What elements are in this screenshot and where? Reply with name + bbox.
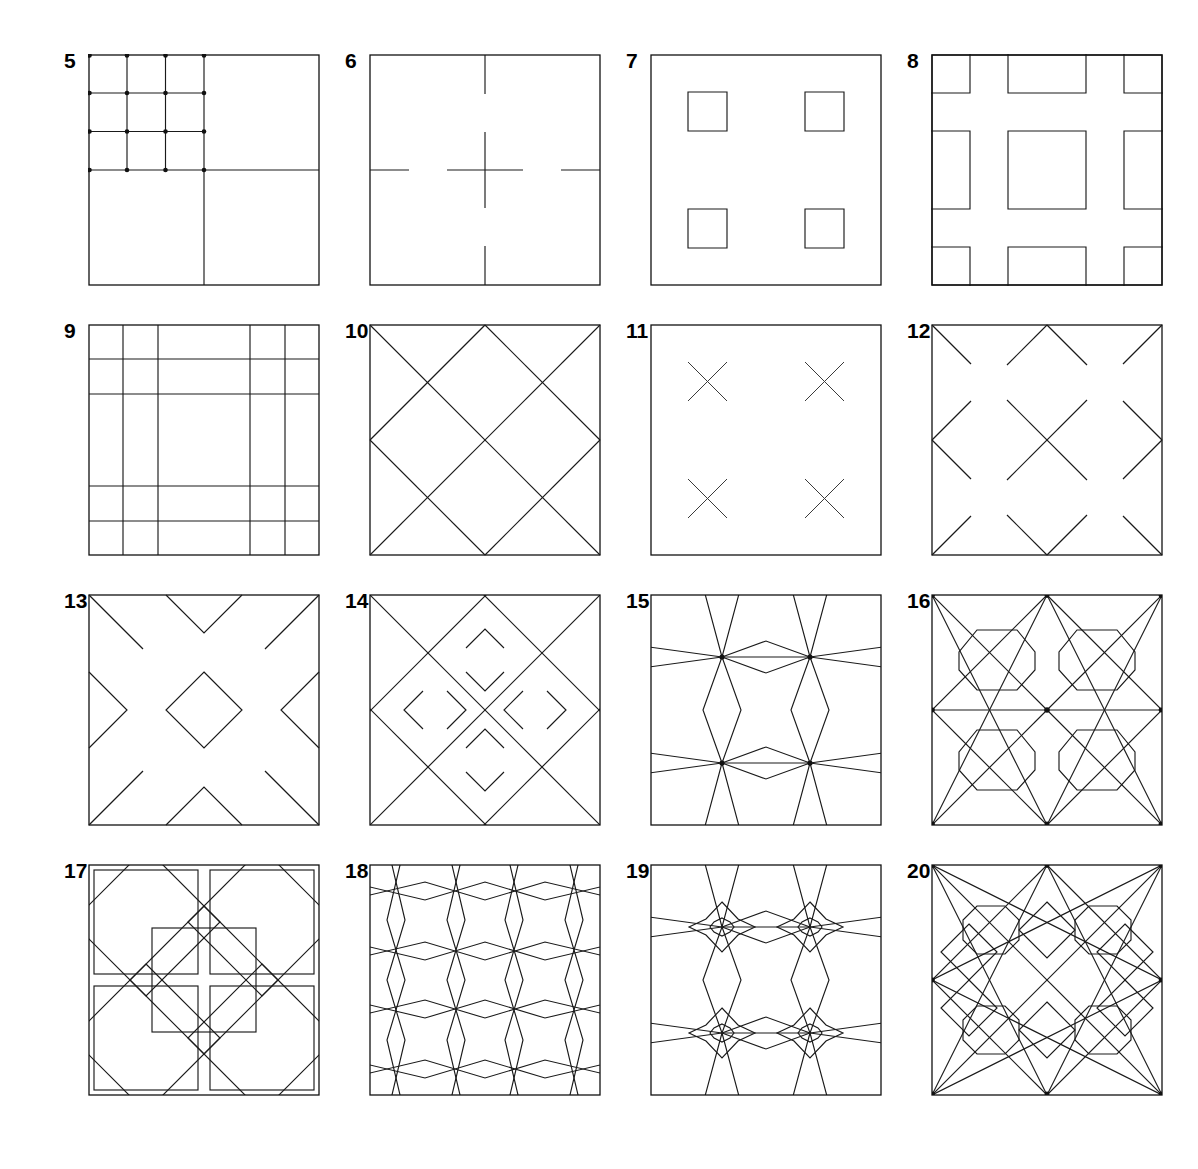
figure-cell-7: 7	[618, 40, 899, 310]
figure-label: 19	[626, 860, 649, 881]
figure-cell-8: 8	[899, 40, 1180, 310]
figure-drawing-12	[931, 324, 1163, 556]
figure-label: 15	[626, 590, 649, 611]
figure-drawing-17	[88, 864, 320, 1096]
figure-drawing-19	[650, 864, 882, 1096]
figure-label: 13	[64, 590, 87, 611]
figure-drawing-6	[369, 54, 601, 286]
figure-cell-13: 13	[56, 580, 337, 850]
figure-label: 20	[907, 860, 930, 881]
figure-cell-20: 20	[899, 850, 1180, 1120]
figure-cell-11: 11	[618, 310, 899, 580]
figure-drawing-9	[88, 324, 320, 556]
figure-drawing-10	[369, 324, 601, 556]
figure-label: 18	[345, 860, 368, 881]
figure-cell-14: 14	[337, 580, 618, 850]
figure-cell-5: 5	[56, 40, 337, 310]
figure-cell-12: 12	[899, 310, 1180, 580]
figure-cell-10: 10	[337, 310, 618, 580]
figure-label: 9	[64, 320, 76, 341]
figure-grid: 5	[0, 0, 1198, 1169]
figure-label: 7	[626, 50, 638, 71]
figure-cell-18: 18	[337, 850, 618, 1120]
figure-drawing-8	[931, 54, 1163, 286]
figure-label: 16	[907, 590, 930, 611]
figure-label: 11	[626, 320, 648, 341]
figure-label: 14	[345, 590, 368, 611]
figure-drawing-13	[88, 594, 320, 826]
figure-label: 12	[907, 320, 930, 341]
figure-cell-16: 16	[899, 580, 1180, 850]
figure-cell-9: 9	[56, 310, 337, 580]
figure-label: 8	[907, 50, 919, 71]
figure-label: 5	[64, 50, 76, 71]
figure-cell-17: 17	[56, 850, 337, 1120]
figure-cell-15: 15	[618, 580, 899, 850]
figure-label: 17	[64, 860, 87, 881]
figure-drawing-11	[650, 324, 882, 556]
figure-cell-6: 6	[337, 40, 618, 310]
figure-drawing-16	[931, 594, 1163, 826]
figure-drawing-20	[931, 864, 1163, 1096]
figure-label: 6	[345, 50, 357, 71]
figure-drawing-5	[88, 54, 320, 286]
figure-drawing-18	[369, 864, 601, 1096]
figure-drawing-14	[369, 594, 601, 826]
pattern-plate: 5	[0, 0, 1198, 1169]
figure-drawing-15	[650, 594, 882, 826]
figure-drawing-7	[650, 54, 882, 286]
figure-cell-19: 19	[618, 850, 899, 1120]
figure-label: 10	[345, 320, 368, 341]
